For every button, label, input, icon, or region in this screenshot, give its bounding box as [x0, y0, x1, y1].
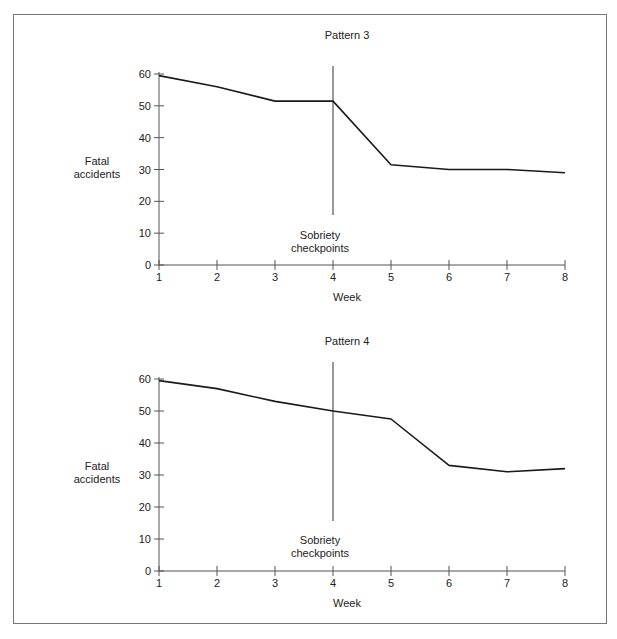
y-tick-label: 40	[139, 132, 151, 144]
y-axis-label: accidents	[74, 168, 121, 180]
x-tick-label: 2	[214, 577, 220, 589]
y-axis-label: Fatal	[85, 155, 109, 167]
chart-title: Pattern 4	[325, 335, 370, 347]
y-tick-label: 60	[139, 68, 151, 80]
y-axis-label: Fatal	[85, 460, 109, 472]
x-tick-label: 5	[388, 271, 394, 283]
y-tick-label: 20	[139, 195, 151, 207]
x-tick-label: 8	[562, 577, 568, 589]
x-tick-label: 7	[504, 271, 510, 283]
x-tick-label: 1	[156, 577, 162, 589]
x-tick-label: 3	[272, 271, 278, 283]
y-tick-label: 50	[139, 100, 151, 112]
annotation-label: Sobriety	[300, 534, 341, 546]
chart-title: Pattern 3	[325, 29, 370, 41]
x-tick-label: 4	[330, 577, 336, 589]
y-tick-label: 20	[139, 501, 151, 513]
y-tick-label: 30	[139, 469, 151, 481]
x-tick-label: 6	[446, 577, 452, 589]
y-tick-label: 40	[139, 437, 151, 449]
annotation-label: Sobriety	[300, 229, 341, 241]
y-tick-label: 10	[139, 533, 151, 545]
fatal-accidents-line	[159, 76, 565, 173]
x-tick-label: 2	[214, 271, 220, 283]
y-tick-label: 0	[145, 565, 151, 577]
y-tick-label: 0	[145, 259, 151, 271]
fatal-accidents-line	[159, 381, 565, 472]
x-tick-label: 4	[330, 271, 336, 283]
x-tick-label: 7	[504, 577, 510, 589]
y-tick-label: 10	[139, 227, 151, 239]
chart-pattern-4: Pattern 4 Fatal accidents Week Sobriety …	[74, 335, 568, 609]
y-axis-label: accidents	[74, 473, 121, 485]
annotation-label: checkpoints	[291, 242, 350, 254]
charts-canvas: Pattern 3 Fatal accidents Week Sobriety …	[0, 0, 617, 639]
x-tick-label: 3	[272, 577, 278, 589]
x-axis-label: Week	[333, 597, 361, 609]
data-line	[159, 76, 565, 173]
y-tick-label: 30	[139, 164, 151, 176]
axes: 010203040506012345678	[139, 66, 568, 283]
data-line	[159, 381, 565, 472]
x-tick-label: 6	[446, 271, 452, 283]
x-tick-label: 5	[388, 577, 394, 589]
y-tick-label: 50	[139, 405, 151, 417]
y-tick-label: 60	[139, 373, 151, 385]
chart-pattern-3: Pattern 3 Fatal accidents Week Sobriety …	[74, 29, 568, 303]
axes: 010203040506012345678	[139, 362, 568, 589]
x-tick-label: 1	[156, 271, 162, 283]
x-tick-label: 8	[562, 271, 568, 283]
x-axis-label: Week	[333, 291, 361, 303]
annotation-label: checkpoints	[291, 547, 350, 559]
